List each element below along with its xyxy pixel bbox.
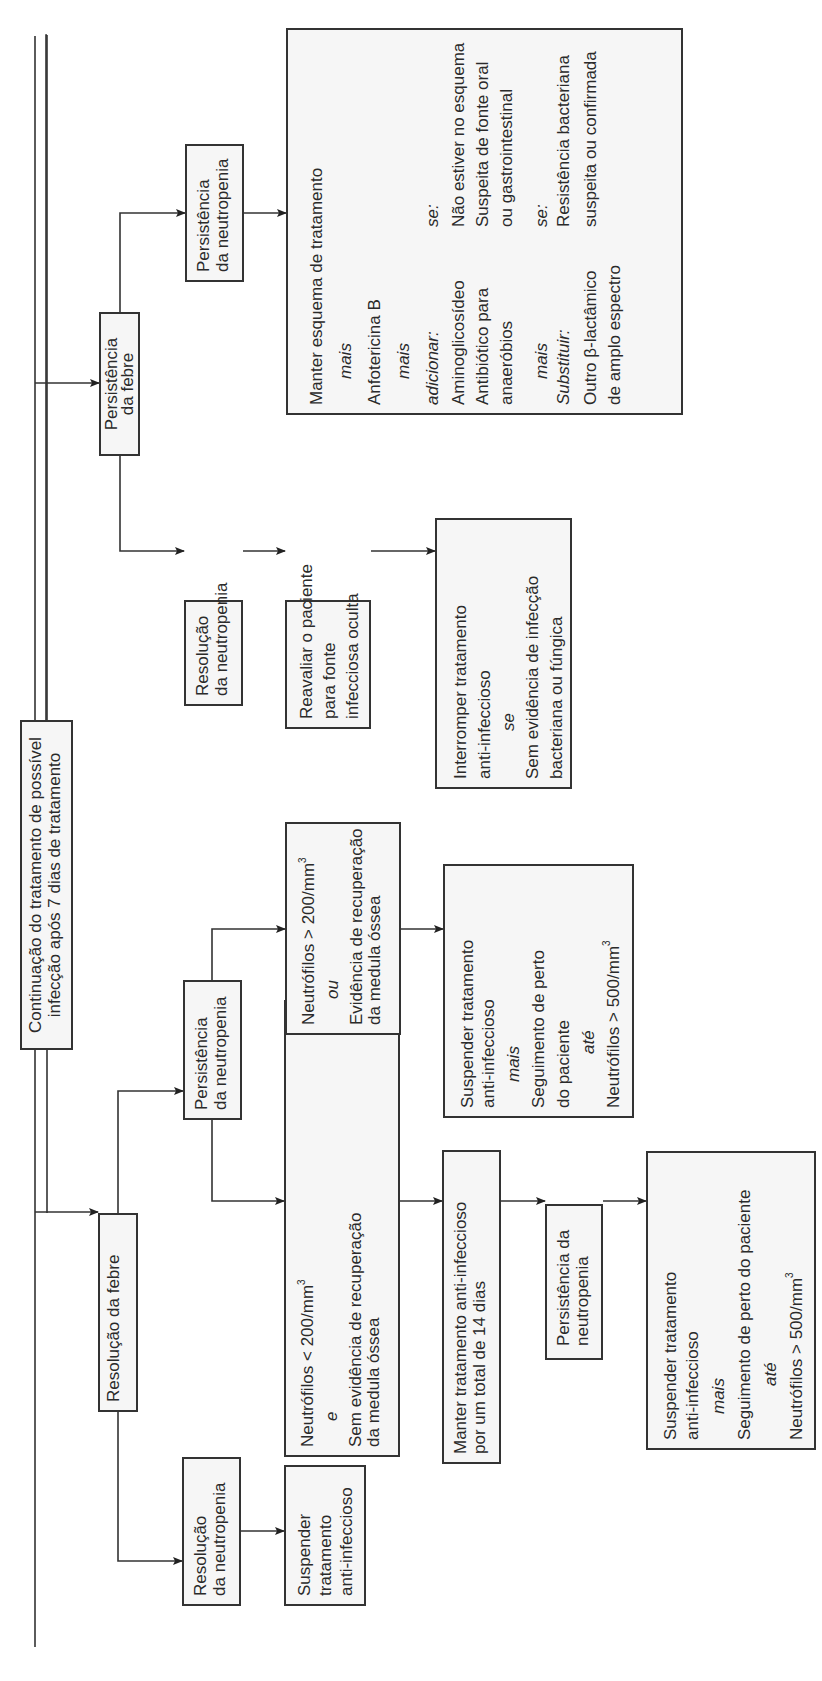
if-label: se:	[418, 204, 447, 227]
node-text: Suspender	[294, 1475, 315, 1596]
suspend-treatment-node-b: Suspender tratamento anti-infeccioso mai…	[646, 1151, 816, 1450]
node-text: da neutropenia	[212, 610, 231, 696]
node-text: da febre	[120, 322, 136, 446]
substitute-section: Outro β-lactâmico de amplo espectro susp…	[579, 38, 627, 405]
node-text: Neutrófilos < 200/mm3	[296, 1010, 320, 1447]
node-text: Resolução	[191, 1467, 210, 1596]
node-text: infecciosa oculta	[341, 610, 364, 719]
node-text: Neutrófilos > 500/mm3	[784, 1161, 810, 1440]
node-text: tratamento	[315, 1475, 336, 1596]
connector-word: ou	[321, 832, 345, 1025]
reevaluate-patient-node: Reavaliar o paciente para fonte infeccio…	[285, 600, 371, 729]
fever-resolution-node: Resolução da febre	[98, 1213, 138, 1412]
node-text: Persistência	[192, 990, 211, 1110]
neutrophils-below-200-node: Neutrófilos < 200/mm3 e Sem evidência de…	[284, 1000, 400, 1457]
node-text: Manter esquema de tratamento	[302, 38, 331, 405]
add-section-header: adicionar: se:	[418, 38, 447, 405]
suspend-treatment-node-c: Suspender tratamento anti-infeccioso mai…	[443, 864, 634, 1118]
neutropenia-persistence-node-c: Persistência da neutropenia	[185, 144, 244, 282]
node-text: do paciente	[551, 874, 576, 1108]
node-text: bacteriana ou fúngica	[545, 528, 569, 779]
node-text: por um total de 14 dias	[470, 1160, 489, 1454]
add-condition: ou gastrointestinal	[495, 43, 519, 227]
add-section: Aminoglicosídeo Antibiótico para anaerób…	[447, 38, 519, 405]
node-text: Seguimento de perto do paciente	[732, 1161, 758, 1440]
add-condition: Não estiver no esquema	[447, 43, 471, 227]
add-item: anaeróbios	[495, 227, 519, 405]
add-label: adicionar:	[418, 227, 447, 405]
connector-word: se	[497, 528, 521, 779]
connector-word: mais	[531, 227, 553, 405]
connector-word: mais	[706, 1161, 732, 1440]
root-node: Continuação do tratamento de possível in…	[20, 720, 73, 1050]
substitute-item: Outro β-lactâmico	[579, 227, 603, 405]
node-text: anti-infeccioso	[473, 528, 497, 779]
connector-word: mais	[389, 38, 418, 405]
node-text: Manter tratamento anti-infeccioso	[451, 1160, 470, 1454]
substitute-item: de amplo espectro	[603, 227, 627, 405]
connector-word: até	[576, 874, 601, 1108]
substitute-label: Substituir:	[553, 227, 575, 405]
connector-word: até	[758, 1161, 784, 1440]
add-item: Antibiótico para	[471, 227, 495, 405]
node-text: da neutropenia	[211, 990, 230, 1110]
fever-persistence-node: Persistência da febre	[99, 312, 140, 456]
neutropenia-persistence-node-b: Persistência da neutropenia	[545, 1204, 603, 1360]
node-text: anti-infeccioso	[336, 1475, 357, 1596]
substitute-condition: Resistência bacteriana	[553, 55, 575, 227]
substitute-condition: suspeita ou confirmada	[579, 51, 603, 227]
node-text: Persistência	[194, 154, 213, 272]
substitute-section-header: mais Substituir: se: Resistência bacteri…	[531, 38, 575, 405]
node-text: Neutrófilos > 200/mm3	[297, 832, 321, 1025]
node-text: Interromper tratamento	[449, 528, 473, 779]
neutropenia-persistence-node-a: Persistência da neutropenia	[183, 980, 242, 1120]
node-text: Sem evidência de infecção	[521, 528, 545, 779]
connector-word: mais	[501, 874, 526, 1108]
node-text: Neutrófilos > 500/mm3	[601, 874, 626, 1108]
neutrophils-above-200-node: Neutrófilos > 200/mm3 ou Evidência de re…	[285, 822, 401, 1035]
maintain-14-days-node: Manter tratamento anti-infeccioso por um…	[442, 1150, 501, 1464]
node-text: Anfotericina B	[360, 38, 389, 405]
root-line-2: infecção após 7 dias de tratamento	[45, 730, 64, 1040]
neutropenia-resolution-node-a: Resolução da neutropenia	[182, 1457, 241, 1606]
node-text: Resolução	[193, 610, 212, 696]
node-text: da neutropenia	[213, 154, 232, 272]
flowchart-canvas: Continuação do tratamento de possível in…	[0, 0, 822, 1681]
connector-word: e	[320, 1010, 344, 1447]
maintain-regimen-node: Manter esquema de tratamento mais Anfote…	[286, 28, 683, 415]
interrupt-treatment-node: Interromper tratamento anti-infeccioso s…	[435, 518, 572, 789]
node-text: Reavaliar o paciente	[295, 610, 318, 719]
neutropenia-resolution-node-b: Resolução da neutropenia	[184, 600, 243, 706]
node-text: Resolução da febre	[104, 1223, 123, 1402]
node-text: para fonte	[318, 610, 341, 719]
suspend-treatment-node-a: Suspender tratamento anti-infeccioso	[284, 1465, 366, 1606]
node-text: Persistência da	[554, 1214, 573, 1346]
if-label: se:	[531, 55, 553, 227]
add-item: Aminoglicosídeo	[447, 227, 471, 405]
connector-word: mais	[331, 38, 360, 405]
node-text: neutropenia	[573, 1214, 592, 1346]
root-line-1: Continuação do tratamento de possível	[26, 730, 45, 1040]
node-text: Seguimento de perto	[526, 874, 551, 1108]
add-condition: Suspeita de fonte oral	[471, 43, 495, 227]
node-text: da neutropenia	[210, 1467, 229, 1596]
